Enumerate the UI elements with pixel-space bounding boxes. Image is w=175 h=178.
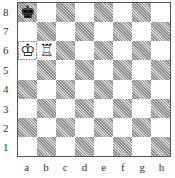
square-h3[interactable]	[151, 99, 170, 118]
square-b4[interactable]	[37, 80, 56, 99]
file-label: e	[94, 161, 113, 173]
white-king-icon[interactable]: ♔	[19, 42, 36, 59]
chess-board: ♚♔♖	[17, 2, 171, 157]
square-c8[interactable]	[56, 3, 75, 22]
square-h5[interactable]	[151, 60, 170, 79]
square-b1[interactable]	[37, 137, 56, 156]
black-king-icon[interactable]: ♚	[20, 4, 35, 21]
square-f3[interactable]	[113, 99, 132, 118]
square-d3[interactable]	[75, 99, 94, 118]
square-a7[interactable]	[18, 22, 37, 41]
file-label: f	[113, 161, 132, 173]
square-g3[interactable]	[132, 99, 151, 118]
square-f8[interactable]	[113, 3, 132, 22]
file-label: b	[36, 161, 55, 173]
square-a4[interactable]	[18, 80, 37, 99]
square-c3[interactable]	[56, 99, 75, 118]
square-d4[interactable]	[75, 80, 94, 99]
rank-label: 1	[3, 138, 15, 157]
square-g5[interactable]	[132, 60, 151, 79]
square-d2[interactable]	[75, 118, 94, 137]
square-d5[interactable]	[75, 60, 94, 79]
square-f2[interactable]	[113, 118, 132, 137]
square-e6[interactable]	[94, 41, 113, 60]
square-a6[interactable]: ♔	[18, 41, 37, 60]
square-f7[interactable]	[113, 22, 132, 41]
rank-label: 2	[3, 118, 15, 137]
square-h8[interactable]	[151, 3, 170, 22]
square-b5[interactable]	[37, 60, 56, 79]
rank-labels: 8 7 6 5 4 3 2 1	[3, 2, 15, 157]
square-h2[interactable]	[151, 118, 170, 137]
square-g8[interactable]	[132, 3, 151, 22]
file-labels: a b c d e f g h	[17, 161, 171, 173]
square-g4[interactable]	[132, 80, 151, 99]
square-a5[interactable]	[18, 60, 37, 79]
square-e2[interactable]	[94, 118, 113, 137]
file-label: h	[152, 161, 171, 173]
square-e5[interactable]	[94, 60, 113, 79]
square-d1[interactable]	[75, 137, 94, 156]
square-c4[interactable]	[56, 80, 75, 99]
square-g7[interactable]	[132, 22, 151, 41]
rank-label: 3	[3, 99, 15, 118]
square-a2[interactable]	[18, 118, 37, 137]
square-e7[interactable]	[94, 22, 113, 41]
square-b7[interactable]	[37, 22, 56, 41]
square-h1[interactable]	[151, 137, 170, 156]
square-e1[interactable]	[94, 137, 113, 156]
rank-label: 6	[3, 41, 15, 60]
square-e3[interactable]	[94, 99, 113, 118]
square-g2[interactable]	[132, 118, 151, 137]
square-e4[interactable]	[94, 80, 113, 99]
square-c6[interactable]	[56, 41, 75, 60]
square-c5[interactable]	[56, 60, 75, 79]
square-h4[interactable]	[151, 80, 170, 99]
file-label: c	[56, 161, 75, 173]
square-b8[interactable]	[37, 3, 56, 22]
rank-label: 4	[3, 80, 15, 99]
square-h6[interactable]	[151, 41, 170, 60]
square-g6[interactable]	[132, 41, 151, 60]
square-e8[interactable]	[94, 3, 113, 22]
square-d8[interactable]	[75, 3, 94, 22]
square-a8[interactable]: ♚	[18, 3, 37, 22]
square-f5[interactable]	[113, 60, 132, 79]
square-b3[interactable]	[37, 99, 56, 118]
square-f1[interactable]	[113, 137, 132, 156]
rank-label: 5	[3, 60, 15, 79]
square-a3[interactable]	[18, 99, 37, 118]
square-b6[interactable]: ♖	[37, 41, 56, 60]
rank-label: 8	[3, 2, 15, 21]
square-d7[interactable]	[75, 22, 94, 41]
rank-label: 7	[3, 21, 15, 40]
square-f6[interactable]	[113, 41, 132, 60]
square-f4[interactable]	[113, 80, 132, 99]
square-c2[interactable]	[56, 118, 75, 137]
file-label: a	[17, 161, 36, 173]
square-c1[interactable]	[56, 137, 75, 156]
square-d6[interactable]	[75, 41, 94, 60]
square-c7[interactable]	[56, 22, 75, 41]
square-b2[interactable]	[37, 118, 56, 137]
square-a1[interactable]	[18, 137, 37, 156]
square-g1[interactable]	[132, 137, 151, 156]
white-rook-icon[interactable]: ♖	[38, 42, 55, 59]
file-label: g	[133, 161, 152, 173]
file-label: d	[75, 161, 94, 173]
square-h7[interactable]	[151, 22, 170, 41]
